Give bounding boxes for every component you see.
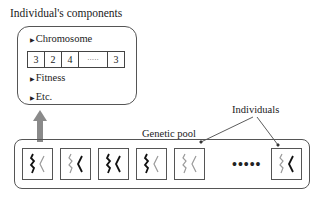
genetic-pool: •••••	[14, 139, 310, 189]
genetic-pool-label: Genetic pool	[140, 128, 198, 139]
individual	[136, 148, 167, 180]
individual	[60, 148, 91, 180]
chromosome-strands-icon	[61, 149, 90, 179]
individual	[98, 148, 129, 180]
individual	[271, 148, 302, 180]
chromosome-strands-icon	[99, 149, 128, 179]
chromosome-strands-icon	[175, 149, 204, 179]
chromosome-strands-icon	[137, 149, 166, 179]
individual	[22, 148, 53, 180]
chromosome-strands-icon	[272, 149, 301, 179]
ellipsis: •••••	[232, 157, 262, 173]
chromosome-strands-icon	[23, 149, 52, 179]
individual	[174, 148, 205, 180]
up-arrow-icon	[33, 110, 47, 142]
individuals-label: Individuals	[232, 104, 279, 115]
